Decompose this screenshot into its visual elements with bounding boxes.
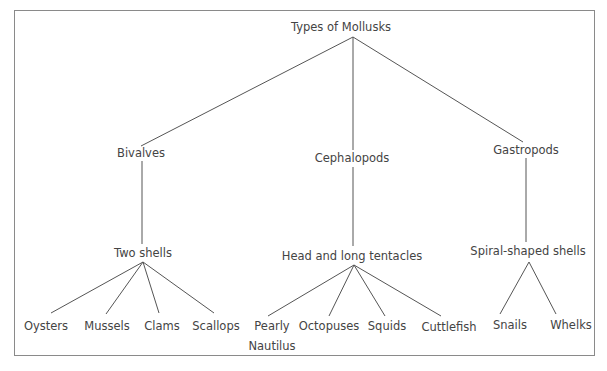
node-pearly-nautilus: Pearly Nautilus <box>248 316 295 356</box>
node-pearly-nautilus-line2: Nautilus <box>248 336 295 356</box>
node-gastropods: Gastropods <box>493 142 559 158</box>
node-cephalopods: Cephalopods <box>315 150 390 166</box>
node-bivalves: Bivalves <box>117 145 165 161</box>
edge-head_tentacles-to-squids <box>354 265 385 316</box>
node-squids: Squids <box>368 318 406 334</box>
node-snails: Snails <box>493 317 527 333</box>
node-pearly-nautilus-line1: Pearly <box>248 316 295 336</box>
edge-two_shells-to-clams <box>143 262 159 313</box>
edge-two_shells-to-oysters <box>51 262 143 313</box>
edge-two_shells-to-scallops <box>143 262 214 313</box>
node-oysters: Oysters <box>24 318 68 334</box>
tree-edges <box>0 0 607 371</box>
node-root: Types of Mollusks <box>291 19 391 35</box>
node-clams: Clams <box>144 318 179 334</box>
edge-root-to-bivalves <box>141 37 353 146</box>
edge-two_shells-to-mussels <box>106 262 143 314</box>
node-whelks: Whelks <box>550 317 592 333</box>
edge-root-to-gastropods <box>353 37 523 142</box>
node-two-shells: Two shells <box>114 245 172 261</box>
node-mussels: Mussels <box>84 318 129 334</box>
edge-spiral_shells-to-whelks <box>529 262 556 314</box>
node-octopuses: Octopuses <box>299 318 360 334</box>
node-head-and-long-tentacles: Head and long tentacles <box>282 248 423 264</box>
node-cuttlefish: Cuttlefish <box>421 319 476 335</box>
edge-head_tentacles-to-cuttlefish <box>354 265 441 316</box>
node-scallops: Scallops <box>192 318 239 334</box>
node-spiral-shaped-shells: Spiral-shaped shells <box>470 243 585 259</box>
edge-spiral_shells-to-snails <box>500 262 529 314</box>
